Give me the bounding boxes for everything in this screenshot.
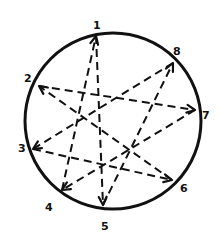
node-label-5: 5 [101,220,109,233]
circle-graph-diagram: 12345678 [0,0,222,238]
node-label-2: 2 [24,72,32,85]
labels-group: 12345678 [18,19,210,233]
node-label-6: 6 [180,182,188,195]
dashed-line [96,36,103,205]
edge-1-to-5 [96,36,107,205]
node-label-1: 1 [93,19,101,32]
node-label-7: 7 [202,109,210,122]
outer-circle [25,33,201,209]
node-label-8: 8 [173,45,181,58]
node-label-4: 4 [45,201,53,214]
edges-group [33,36,195,205]
dashed-line [39,86,195,110]
node-label-3: 3 [18,142,26,155]
edge-2-to-7 [39,86,195,113]
